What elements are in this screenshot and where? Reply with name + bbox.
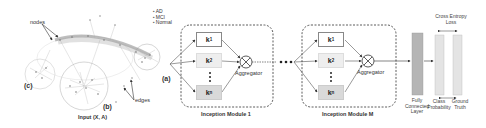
module-1-kernel-1: k1 [196,32,222,47]
module-1-to-aggregator-lines [222,40,240,92]
module-m-title: Inception Module M [322,111,373,117]
fc-layer-bar [412,33,423,95]
loss-label: Cross Entropy Loss [434,14,468,25]
module-m-kernel-n: kn [318,85,344,100]
module-m-border [302,25,396,107]
module-1-aggregator-label: Aggregator [235,70,262,76]
cluster-c-label: (c) [24,82,33,89]
module-1-kernel-n: kn [196,85,222,100]
legend: AD MCI Normal [153,9,172,26]
module-1-kernel-2: k2 [196,53,222,68]
module-m-to-aggregator-lines [345,40,362,92]
fanout-arrows-m [294,40,317,92]
between-modules-dots [280,61,293,64]
module-m-kernel-1: k1 [318,32,344,47]
cluster-a-label: (a) [162,75,171,82]
class-probability-bar [435,35,444,95]
module-m-kernel-2: k2 [318,53,344,68]
legend-item-normal: Normal [153,20,172,26]
ground-truth-bar [453,35,462,95]
aggregator-1-icon [240,56,252,68]
module-1-border [181,25,273,107]
module-1-title: Inception Module 1 [201,111,251,117]
ground-truth-label: Ground Truth [450,99,470,110]
nodes-label: nodes [30,19,45,25]
cluster-b-label: (b) [103,103,112,110]
edges-label: edges [135,97,150,103]
module-m-aggregator-label: Aggregator [357,69,384,75]
aggregator-m-icon [362,55,374,67]
fanout-arrows-1 [170,40,195,92]
input-caption: Input (X, A) [78,114,107,120]
input-graph [25,15,160,110]
class-probability-label: Class Probability [426,99,452,110]
